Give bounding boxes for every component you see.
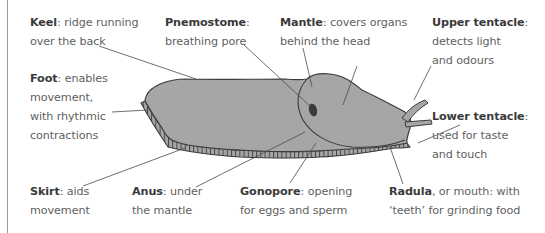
term-radula: Radula	[389, 185, 432, 198]
upper-tentacle-shape	[402, 100, 428, 122]
term-anus: Anus	[132, 185, 163, 198]
term-skirt: Skirt	[30, 185, 60, 198]
term-pnemostome: Pnemostome	[165, 16, 246, 29]
term-mantle: Mantle	[280, 16, 323, 29]
label-gonopore: Gonopore: opening for eggs and sperm	[240, 182, 352, 220]
term-foot: Foot	[30, 72, 58, 85]
term-keel: Keel	[30, 16, 57, 29]
label-radula: Radula, or mouth: with ‘teeth’ for grind…	[389, 182, 520, 220]
label-foot: Foot: enables movement, with rhythmic co…	[30, 69, 108, 145]
term-gonopore: Gonopore	[240, 185, 301, 198]
slug-body	[145, 74, 411, 152]
label-mantle: Mantle: covers organs behind the head	[280, 13, 407, 51]
label-skirt: Skirt: aids movement	[30, 182, 90, 220]
label-pnemostome: Pnemostome: breathing pore	[165, 13, 250, 51]
term-upper-tentacle: Upper tentacle	[432, 16, 525, 29]
term-lower-tentacle: Lower tentacle	[432, 110, 525, 123]
label-upper-tentacle: Upper tentacle: detects light and odours	[432, 13, 528, 70]
label-lower-tentacle: Lower tentacle: used for taste and touch	[432, 107, 528, 164]
label-keel: Keel: ridge running over the back	[30, 13, 138, 51]
label-anus: Anus: under the mantle	[132, 182, 202, 220]
